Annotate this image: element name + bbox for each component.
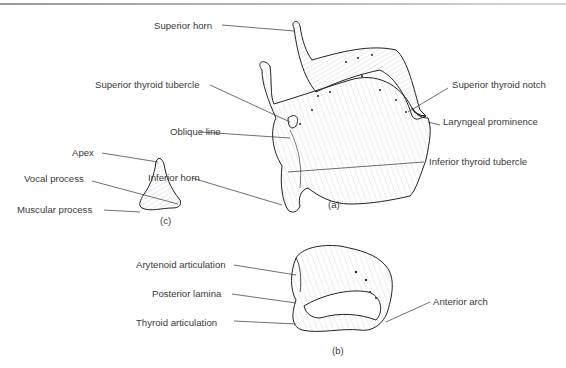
thyroid-cartilage-drawing (260, 22, 430, 213)
arytenoid-cartilage-drawing (140, 158, 181, 209)
label-arytenoid-articulation: Arytenoid articulation (136, 260, 226, 270)
label-superior-thyroid-tubercle: Superior thyroid tubercle (95, 80, 200, 90)
label-vocal-process: Vocal process (24, 174, 84, 184)
label-apex: Apex (72, 148, 94, 158)
label-oblique-line: Oblique line (170, 127, 221, 137)
caption-a: (a) (328, 200, 340, 210)
label-superior-thyroid-notch: Superior thyroid notch (452, 80, 546, 90)
larynx-cartilage-illustration (0, 0, 566, 368)
label-muscular-process: Muscular process (17, 205, 92, 215)
caption-c: (c) (160, 216, 171, 226)
cricoid-cartilage-drawing (292, 246, 393, 332)
label-inferior-thyroid-tubercle: Inferior thyroid tubercle (429, 157, 527, 167)
label-anterior-arch: Anterior arch (433, 297, 488, 307)
label-superior-horn: Superior horn (154, 21, 212, 31)
label-posterior-lamina: Posterior lamina (152, 289, 221, 299)
label-thyroid-articulation: Thyroid articulation (136, 318, 217, 328)
caption-b: (b) (332, 346, 344, 356)
label-laryngeal-prominence: Laryngeal prominence (443, 117, 538, 127)
label-inferior-horn: Inferior horn (148, 173, 200, 183)
